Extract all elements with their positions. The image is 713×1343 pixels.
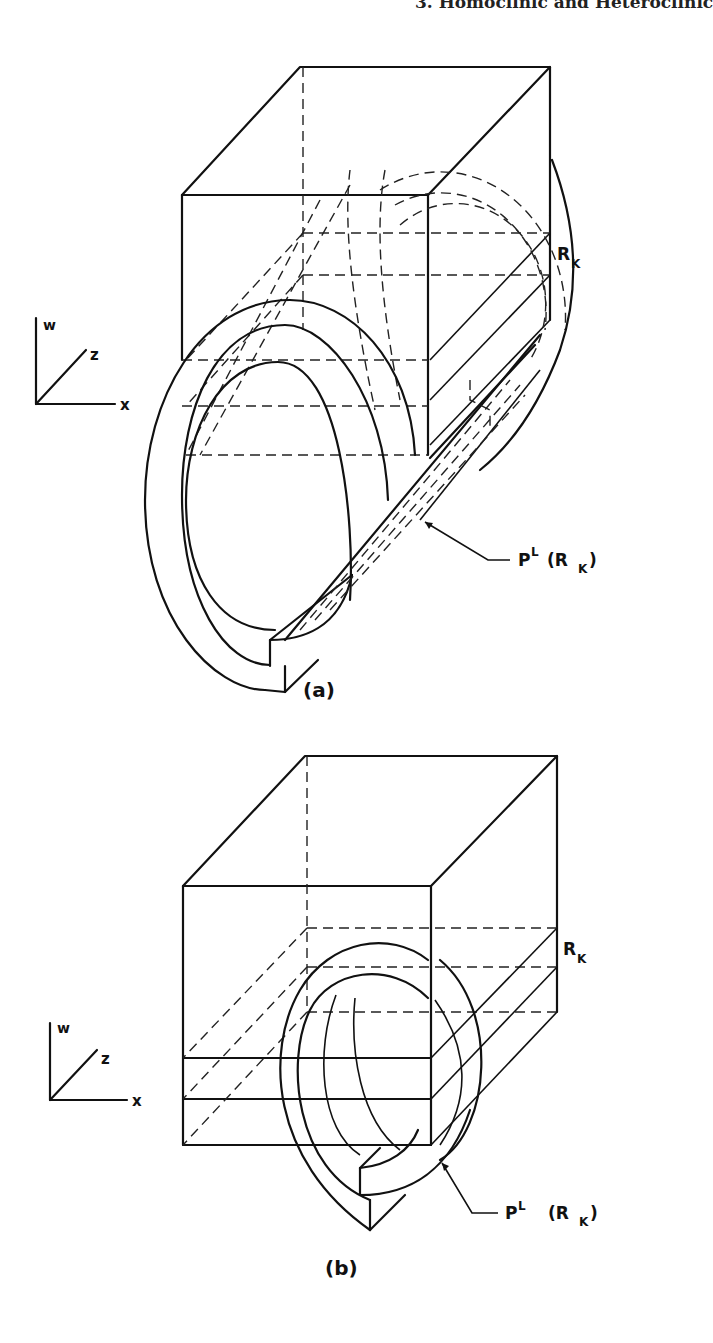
svg-text:L: L xyxy=(531,545,539,559)
axis-label-z: z xyxy=(101,1050,110,1068)
svg-text:R: R xyxy=(563,939,576,959)
svg-text:): ) xyxy=(590,1203,598,1223)
axis-label-x: x xyxy=(132,1092,142,1110)
cube-b xyxy=(183,756,557,1145)
tube-outer-arc-a xyxy=(480,160,573,470)
axis-label-w: w xyxy=(57,1020,70,1036)
ring-a xyxy=(145,300,415,692)
svg-text:(R: (R xyxy=(547,550,568,570)
svg-text:): ) xyxy=(589,550,597,570)
axes-triad-a: w z x xyxy=(36,317,130,414)
label-rk-b: R K xyxy=(563,939,587,966)
caption-a: (a) xyxy=(303,678,335,702)
svg-text:(R: (R xyxy=(548,1203,569,1223)
caption-b: (b) xyxy=(325,1256,358,1280)
figure-a: w z x xyxy=(36,67,597,702)
ring-b xyxy=(280,943,481,1230)
cube-a xyxy=(182,67,550,455)
tube-a xyxy=(285,335,540,640)
hidden-arcs-a xyxy=(348,170,566,410)
svg-text:L: L xyxy=(518,1199,526,1213)
svg-text:P: P xyxy=(505,1203,517,1223)
svg-text:P: P xyxy=(518,550,530,570)
axis-label-w: w xyxy=(43,317,56,333)
axis-label-x: x xyxy=(120,396,130,414)
label-preimage-b: P L (R K ) xyxy=(505,1199,598,1229)
svg-text:K: K xyxy=(579,1215,589,1229)
axes-triad-b: w z x xyxy=(50,1020,142,1110)
svg-text:K: K xyxy=(571,257,581,271)
svg-text:R: R xyxy=(557,244,570,264)
svg-text:K: K xyxy=(578,562,588,576)
axis-label-z: z xyxy=(90,346,99,364)
leader-preimage-b xyxy=(442,1163,498,1213)
svg-text:K: K xyxy=(577,952,587,966)
label-preimage-a: P L (R K ) xyxy=(518,545,597,576)
label-rk-a: R K xyxy=(557,244,581,271)
figure-b: w z x xyxy=(50,756,598,1280)
leader-preimage-a xyxy=(425,522,510,560)
